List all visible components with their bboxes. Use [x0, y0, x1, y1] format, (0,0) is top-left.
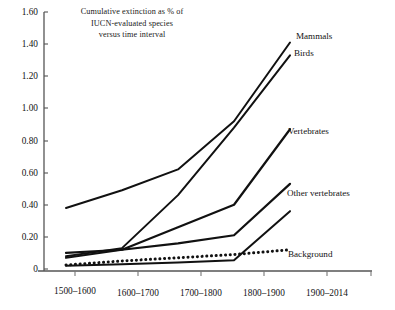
series-line-vertebrates [66, 129, 290, 258]
chart-container: Cumulative extinction as % of IUCN-evalu… [0, 0, 395, 310]
data-series-group [66, 43, 290, 266]
x-axis-ticks [75, 271, 371, 276]
axis-lines [38, 12, 372, 271]
chart-plot-area [0, 0, 395, 310]
series-line-mammals [66, 43, 290, 208]
series-line-birds [66, 55, 290, 256]
